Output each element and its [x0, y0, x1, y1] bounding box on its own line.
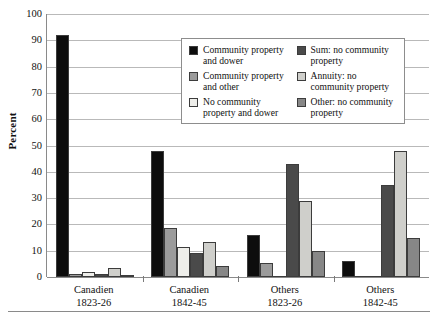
x-axis-group-label-line: 1823-26: [237, 297, 333, 310]
y-tick-label-0: 0: [12, 272, 42, 282]
bar: [121, 275, 134, 277]
x-axis-group-label: Canadien1842-45: [142, 284, 238, 309]
bar: [69, 274, 82, 277]
bar: [82, 272, 95, 277]
legend-label-line: and other: [203, 81, 284, 92]
legend-label-line: Sum: no community: [311, 44, 389, 55]
legend-label-line: Community property: [203, 44, 284, 55]
y-tick-label-100: 100: [12, 9, 42, 19]
y-tick-label-50: 50: [12, 141, 42, 151]
y-tick-label-70: 70: [12, 88, 42, 98]
y-tick-label-40: 40: [12, 167, 42, 177]
bar-chart-figure: Percent 0102030405060708090100 Canadien1…: [0, 0, 438, 324]
x-axis-group-label: Others1842-45: [333, 284, 429, 309]
x-axis-group-label: Canadien1823-26: [46, 284, 142, 309]
bar: [355, 276, 368, 277]
bar: [203, 242, 216, 278]
bar-group: [47, 14, 143, 277]
bar: [164, 228, 177, 277]
x-axis-group-label-line: 1842-45: [142, 297, 238, 310]
legend-swatch-icon: [297, 98, 306, 107]
legend-swatch-icon: [189, 72, 198, 81]
legend-item: No communityproperty and dower: [189, 96, 291, 118]
y-tick-label-80: 80: [12, 62, 42, 72]
bar: [381, 185, 394, 277]
legend-label: Sum: no communityproperty: [311, 44, 389, 66]
legend-swatch-icon: [189, 46, 198, 55]
legend-swatch-icon: [297, 72, 306, 81]
x-axis-group-label-line: Others: [333, 284, 429, 297]
bar: [273, 276, 286, 277]
x-axis-group-separator: [334, 276, 335, 282]
legend-label: Other: no communityproperty: [311, 96, 394, 118]
legend-column-right: Sum: no communitypropertyAnnuity: nocomm…: [297, 44, 399, 118]
bar: [95, 274, 108, 277]
legend-item: Sum: no communityproperty: [297, 44, 399, 66]
legend-label-line: Community property: [203, 70, 284, 81]
bottom-rule: [8, 311, 430, 312]
legend-label-line: property and dower: [203, 107, 278, 118]
bar: [216, 266, 229, 277]
x-axis-group-separator: [238, 276, 239, 282]
bar: [177, 247, 190, 277]
legend-label: No communityproperty and dower: [203, 96, 278, 118]
bar: [299, 201, 312, 277]
bar-cluster: [56, 14, 134, 277]
legend-label: Community propertyand other: [203, 70, 284, 92]
x-axis-group-label-line: Canadien: [142, 284, 238, 297]
legend-item: Community propertyand other: [189, 70, 291, 92]
bar: [190, 253, 203, 277]
bar: [407, 238, 420, 277]
bar: [151, 151, 164, 277]
bar: [108, 268, 121, 277]
bar: [260, 263, 273, 277]
legend: Community propertyand dowerCommunity pro…: [181, 38, 405, 124]
legend-item: Community propertyand dower: [189, 44, 291, 66]
legend-label-line: No community: [203, 96, 278, 107]
bar: [342, 261, 355, 277]
bar: [312, 251, 325, 277]
legend-label-line: property: [311, 55, 389, 66]
y-tick-label-90: 90: [12, 35, 42, 45]
legend-label: Community propertyand dower: [203, 44, 284, 66]
bar: [56, 35, 69, 277]
x-axis-group-label-line: 1842-45: [333, 297, 429, 310]
bar: [286, 164, 299, 277]
y-axis: 0102030405060708090100: [8, 0, 42, 324]
x-axis-group-label-line: Others: [237, 284, 333, 297]
bar: [394, 151, 407, 277]
legend-swatch-icon: [297, 46, 306, 55]
y-tick-label-60: 60: [12, 114, 42, 124]
legend-label-line: community property: [311, 81, 390, 92]
y-tick-label-10: 10: [12, 246, 42, 256]
x-axis-group-separator: [143, 276, 144, 282]
bar: [247, 235, 260, 277]
x-axis-group-label-line: 1823-26: [46, 297, 142, 310]
legend-label-line: Annuity: no: [311, 70, 390, 81]
x-axis-group-label-line: Canadien: [46, 284, 142, 297]
x-axis-group-label: Others1823-26: [237, 284, 333, 309]
legend-label-line: and dower: [203, 55, 284, 66]
y-tick-label-20: 20: [12, 219, 42, 229]
y-tick-label-30: 30: [12, 193, 42, 203]
legend-swatch-icon: [189, 98, 198, 107]
legend-label: Annuity: nocommunity property: [311, 70, 390, 92]
legend-item: Annuity: nocommunity property: [297, 70, 399, 92]
bar: [368, 276, 381, 277]
legend-label-line: property: [311, 107, 394, 118]
legend-item: Other: no communityproperty: [297, 96, 399, 118]
legend-label-line: Other: no community: [311, 96, 394, 107]
legend-column-left: Community propertyand dowerCommunity pro…: [189, 44, 291, 118]
